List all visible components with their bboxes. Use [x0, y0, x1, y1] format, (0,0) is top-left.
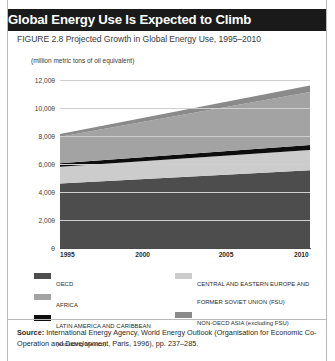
page-border-left — [7, 0, 8, 361]
gridline — [60, 136, 310, 137]
figure-caption: FIGURE 2.8 Projected Growth in Global En… — [17, 34, 261, 44]
y-axis-tick-mark — [51, 192, 55, 193]
area-band — [60, 170, 310, 248]
gridline — [60, 220, 310, 221]
y-axis-tick-mark — [51, 136, 55, 137]
legend-swatch — [175, 312, 192, 319]
legend-column-right: CENTRAL AND EASTERN EUROPE AND FORMER SO… — [175, 272, 325, 332]
plot-area — [60, 80, 310, 248]
x-axis-tick-label: 1995 — [60, 251, 75, 258]
page-border-right — [326, 0, 327, 361]
source-divider — [8, 319, 326, 320]
x-axis-tick-label: 2010 — [294, 251, 309, 258]
units-label: (million metric tons of oil equivalent) — [31, 57, 134, 64]
gridline — [60, 108, 310, 109]
source-note: Source: International Energy Agency, Wor… — [17, 328, 317, 349]
gridline — [60, 192, 310, 193]
legend-item-label: OECD — [56, 281, 73, 287]
legend-item-label: CENTRAL AND EASTERN EUROPE AND FORMER SO… — [197, 281, 309, 305]
legend-item: AFRICA — [34, 293, 174, 311]
legend-swatch — [175, 273, 192, 280]
y-axis: 02,0004,0006,0008,00010,00012,000 — [17, 80, 55, 248]
x-axis-line — [60, 248, 311, 249]
source-text: International Energy Agency, World Energ… — [17, 328, 316, 348]
y-axis-tick-mark — [51, 80, 55, 81]
x-axis-tick-label: 2000 — [135, 251, 150, 258]
legend-item: OECD — [34, 272, 174, 290]
legend-item: CENTRAL AND EASTERN EUROPE AND FORMER SO… — [175, 272, 325, 308]
y-axis-tick-mark — [51, 108, 55, 109]
chart-plot: 02,0004,0006,0008,00010,00012,000 199520… — [17, 74, 317, 260]
legend-item-label: AFRICA — [56, 302, 78, 308]
gridline — [60, 164, 310, 165]
y-axis-tick-mark — [51, 164, 55, 165]
legend-item-label: NON-OECD ASIA (excluding FSU) — [197, 320, 289, 326]
y-axis-tick-mark — [51, 248, 55, 249]
gridline — [60, 80, 310, 81]
y-axis-tick-mark — [51, 220, 55, 221]
x-axis-tick-label: 2005 — [219, 251, 234, 258]
legend-swatch — [34, 273, 51, 280]
page-title: Global Energy Use Is Expected to Climb — [8, 10, 251, 30]
legend-swatch — [34, 294, 51, 301]
source-label: Source: — [17, 328, 44, 337]
figure-card: Global Energy Use Is Expected to Climb F… — [0, 0, 335, 361]
legend-item: NON-OECD ASIA (excluding FSU) — [175, 311, 325, 329]
chart-legend: OECDAFRICALATIN AMERICA AND CARIBBEAN (e… — [17, 272, 317, 314]
